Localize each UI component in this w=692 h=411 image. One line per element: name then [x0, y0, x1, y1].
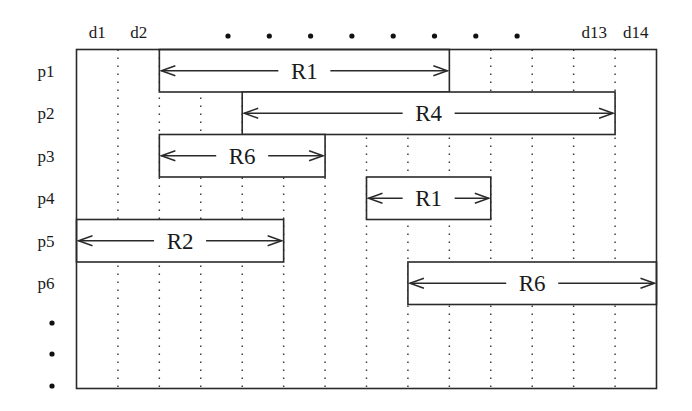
column-ellipsis-dot [225, 33, 230, 38]
allocation-bar: R4 [242, 92, 615, 135]
allocation-bar: R1 [367, 177, 491, 220]
column-ellipsis-dot [515, 33, 520, 38]
row-ellipsis-dot [49, 383, 54, 388]
column-label: d13 [582, 23, 608, 42]
column-ellipsis-dot [432, 33, 437, 38]
row-label: p4 [38, 189, 56, 208]
bar-label: R4 [415, 101, 442, 126]
row-label: p3 [38, 147, 55, 166]
resource-allocation-diagram: R1R4R6R1R2R6 d1d2d13d14 p1p2p3p4p5p6 [0, 0, 692, 411]
row-label: p6 [38, 274, 55, 293]
column-header-labels: d1d2d13d14 [89, 23, 649, 42]
bar-label: R1 [291, 59, 318, 84]
bar-label: R1 [415, 186, 442, 211]
allocation-bar: R6 [408, 262, 657, 305]
row-label: p5 [38, 232, 55, 251]
row-labels: p1p2p3p4p5p6 [38, 62, 56, 389]
column-ellipsis-dot [308, 33, 313, 38]
row-label: p1 [38, 62, 55, 81]
column-label: d14 [623, 23, 649, 42]
allocation-bar: R6 [159, 135, 325, 178]
row-ellipsis-dot [49, 320, 54, 325]
row-ellipsis-dot [49, 351, 54, 356]
bar-label: R2 [167, 229, 194, 254]
column-label: d2 [130, 23, 147, 42]
column-ellipsis-dot [267, 33, 272, 38]
allocation-bar: R1 [159, 50, 449, 93]
column-label: d1 [89, 23, 106, 42]
column-ellipsis-dot [473, 33, 478, 38]
column-ellipsis-dot [391, 33, 396, 38]
row-label: p2 [38, 104, 55, 123]
bar-label: R6 [229, 144, 256, 169]
column-ellipsis-dot [349, 33, 354, 38]
allocation-bar: R2 [77, 220, 284, 263]
bar-label: R6 [519, 271, 546, 296]
